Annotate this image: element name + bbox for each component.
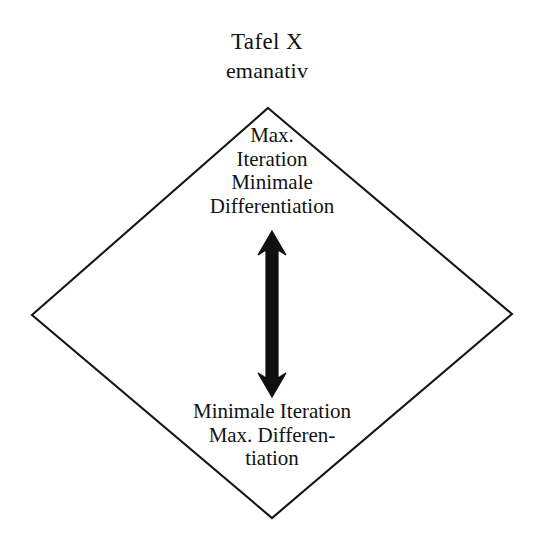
bottom-node-line-3: tiation [107, 447, 437, 471]
figure-heading: Tafel X emanativ [0, 30, 534, 82]
tafel-x-diagram: Tafel X emanativ Max. Iteration Minimale… [0, 0, 534, 538]
bottom-node-line-1: Minimale Iteration [107, 400, 437, 424]
top-node-text: Max. Iteration Minimale Differentiation [107, 124, 437, 219]
top-node-line-2: Iteration [107, 148, 437, 172]
double-headed-arrow-icon [243, 228, 301, 400]
figure-title: Tafel X [0, 30, 534, 53]
top-node-line-4: Differentiation [107, 195, 437, 219]
bottom-node-text: Minimale Iteration Max. Differen- tiatio… [107, 400, 437, 471]
top-node-line-1: Max. [107, 124, 437, 148]
arrow-outline-path [258, 231, 286, 397]
top-node-line-3: Minimale [107, 171, 437, 195]
bottom-node-line-2: Max. Differen- [107, 424, 437, 448]
figure-subtitle: emanativ [0, 60, 534, 82]
